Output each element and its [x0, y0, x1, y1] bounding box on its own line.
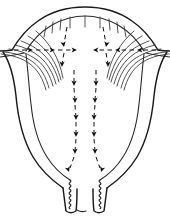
uterus-diagram-figure: [0, 0, 170, 216]
uterus-diagram-canvas: [0, 0, 170, 216]
